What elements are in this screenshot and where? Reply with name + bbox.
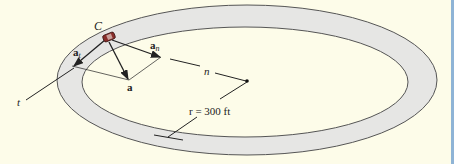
car-label: C — [94, 20, 102, 32]
a-t-sub: t — [79, 51, 81, 60]
normal-axis-label: n — [204, 66, 210, 77]
normal-axis-line — [170, 59, 200, 66]
diagram-canvas: C at an a n t r = 300 ft — [0, 0, 454, 164]
normal-axis-line-2 — [215, 73, 246, 81]
construction-line-2 — [129, 57, 161, 80]
track-diagram — [0, 0, 454, 164]
radius-label: r = 300 ft — [189, 106, 230, 117]
a-label: a — [127, 82, 133, 93]
radius-line — [220, 82, 247, 99]
a-n-label: an — [150, 40, 160, 53]
tangent-axis-label: t — [17, 97, 20, 108]
a-n-sub: n — [156, 44, 160, 53]
a-t-label: at — [73, 47, 81, 60]
